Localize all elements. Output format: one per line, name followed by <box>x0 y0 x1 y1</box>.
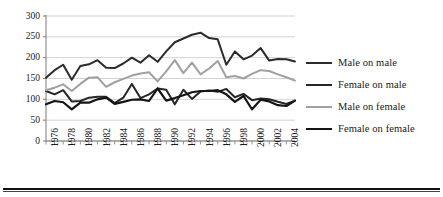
x-tick-label: 1986 <box>136 128 146 147</box>
legend-swatch-line-icon <box>306 106 332 108</box>
x-tick-label: 2004 <box>290 128 300 147</box>
figure: 050100150200250300 197619781980198219841… <box>0 0 443 197</box>
series-line-1 <box>46 84 295 104</box>
x-tick-label: 1984 <box>119 128 129 147</box>
y-tick-label: 50 <box>16 115 40 125</box>
legend-swatch-line-icon <box>306 62 332 64</box>
legend-swatch-line-icon <box>306 84 332 86</box>
chart-plot-svg <box>0 0 305 178</box>
x-tick-label: 1996 <box>222 128 232 147</box>
legend-item: Female on male <box>306 74 442 95</box>
chart-legend: Male on maleFemale on maleMale on female… <box>306 52 442 140</box>
y-tick-label: 300 <box>16 11 40 21</box>
x-tick-label: 1982 <box>102 128 112 147</box>
line-chart: 050100150200250300 197619781980198219841… <box>0 0 305 178</box>
legend-item-label: Female on male <box>338 79 406 90</box>
y-tick-label: 250 <box>16 31 40 41</box>
series-line-0 <box>46 33 295 80</box>
x-tick-label: 1978 <box>67 128 77 147</box>
x-tick-label: 1976 <box>50 128 60 147</box>
page-divider-rule-secondary <box>3 191 440 192</box>
x-tick-label: 1988 <box>153 128 163 147</box>
x-tick-label: 1994 <box>205 128 215 147</box>
x-tick-label: 2002 <box>273 128 283 147</box>
legend-item: Male on female <box>306 96 442 117</box>
legend-item-label: Male on male <box>338 57 397 68</box>
y-tick-label: 150 <box>16 73 40 83</box>
x-tick-label: 2000 <box>256 128 266 147</box>
legend-item: Male on male <box>306 52 442 73</box>
y-tick-label: 100 <box>16 94 40 104</box>
legend-item-label: Female on female <box>338 123 415 134</box>
legend-item-label: Male on female <box>338 101 405 112</box>
x-tick-label: 1980 <box>84 128 94 147</box>
y-tick-label: 0 <box>16 136 40 146</box>
y-tick-label: 200 <box>16 52 40 62</box>
x-tick-label: 1992 <box>187 128 197 147</box>
page-divider-rule <box>3 188 440 190</box>
legend-item: Female on female <box>306 118 442 139</box>
x-tick-label: 1990 <box>170 128 180 147</box>
x-tick-label: 1998 <box>239 128 249 147</box>
legend-swatch-line-icon <box>306 128 332 130</box>
